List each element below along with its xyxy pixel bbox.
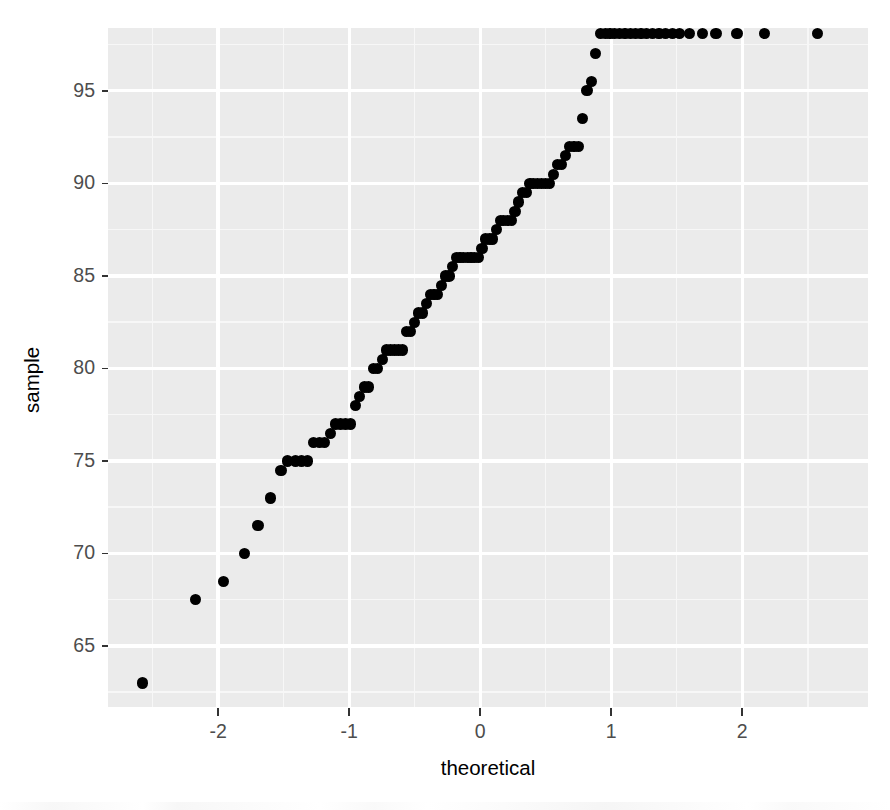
y-axis-tick-label: 95 — [0, 81, 95, 101]
data-point — [397, 344, 408, 355]
y-axis-tick-label: 90 — [0, 173, 95, 193]
y-axis-tick-mark — [102, 368, 108, 370]
y-axis-tick-mark — [102, 275, 108, 277]
data-point — [759, 28, 770, 39]
y-axis-tick-mark — [102, 553, 108, 555]
grid-line-minor-horizontal — [108, 414, 868, 416]
data-point — [190, 594, 201, 605]
data-point — [443, 270, 454, 281]
data-point — [573, 141, 584, 152]
y-axis-tick-mark — [102, 645, 108, 647]
x-axis-tick-label: 2 — [702, 722, 782, 742]
data-point — [252, 520, 263, 531]
y-axis-title: sample — [22, 346, 43, 412]
grid-line-major-horizontal — [108, 89, 868, 92]
data-point — [710, 28, 721, 39]
grid-line-minor-horizontal — [108, 506, 868, 508]
x-axis-tick-mark — [479, 708, 481, 716]
qq-plot-figure: 65707580859095 -2-1012 sample theoretica… — [0, 0, 890, 810]
x-axis-tick-mark — [741, 708, 743, 716]
x-axis-title: theoretical — [288, 758, 688, 779]
grid-line-major-horizontal — [108, 552, 868, 555]
data-point — [137, 677, 148, 688]
data-point — [239, 548, 250, 559]
grid-line-minor-horizontal — [108, 691, 868, 693]
y-axis-tick-label: 85 — [0, 266, 95, 286]
plot-panel — [108, 28, 868, 707]
grid-line-minor-horizontal — [108, 44, 868, 46]
page-edge-artifact — [0, 802, 890, 810]
grid-line-major-horizontal — [108, 367, 868, 370]
data-point — [265, 492, 276, 503]
y-axis-tick-label: 80 — [0, 358, 95, 378]
data-point — [684, 28, 695, 39]
y-axis-tick-label: 70 — [0, 543, 95, 563]
x-axis-tick-mark — [610, 708, 612, 716]
grid-line-minor-horizontal — [108, 321, 868, 323]
data-point — [302, 455, 313, 466]
data-point — [590, 48, 601, 59]
x-axis-tick-label: -2 — [178, 722, 258, 742]
grid-line-minor-horizontal — [108, 229, 868, 231]
data-point — [218, 576, 229, 587]
x-axis-tick-label: -1 — [309, 722, 389, 742]
y-axis-tick-mark — [102, 90, 108, 92]
data-point — [731, 28, 742, 39]
y-axis-tick-label: 65 — [0, 636, 95, 656]
grid-line-minor-horizontal — [108, 136, 868, 138]
data-point — [586, 76, 597, 87]
x-axis-tick-mark — [217, 708, 219, 716]
data-point — [548, 169, 559, 180]
grid-line-major-horizontal — [108, 182, 868, 185]
grid-line-major-horizontal — [108, 459, 868, 462]
x-axis-tick-label: 0 — [440, 722, 520, 742]
data-point — [363, 381, 374, 392]
grid-line-major-horizontal — [108, 274, 868, 277]
data-point — [345, 418, 356, 429]
data-point — [812, 28, 823, 39]
data-point — [577, 113, 588, 124]
x-axis-tick-label: 1 — [571, 722, 651, 742]
grid-line-major-horizontal — [108, 644, 868, 647]
y-axis-tick-label: 75 — [0, 451, 95, 471]
y-axis-tick-mark — [102, 183, 108, 185]
y-axis-tick-mark — [102, 460, 108, 462]
x-axis-tick-mark — [348, 708, 350, 716]
grid-line-minor-horizontal — [108, 599, 868, 601]
data-point — [697, 28, 708, 39]
